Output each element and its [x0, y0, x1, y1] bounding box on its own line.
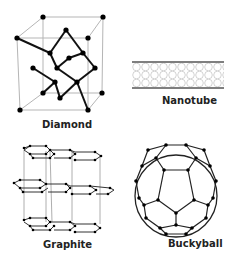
graphite-structure	[13, 145, 114, 234]
carbon-allotropes-figure	[0, 0, 235, 266]
buckyball-label: Buckyball	[168, 238, 223, 249]
diamond-label: Diamond	[42, 119, 92, 130]
graphite-label: Graphite	[43, 239, 92, 250]
nanotube-structure	[132, 62, 224, 88]
graphite-interlayer-lines	[24, 150, 100, 224]
diamond-structure	[14, 14, 105, 112]
buckyball-structure	[134, 143, 218, 237]
nanotube-label: Nanotube	[162, 95, 217, 106]
graphite-layers	[14, 146, 114, 232]
